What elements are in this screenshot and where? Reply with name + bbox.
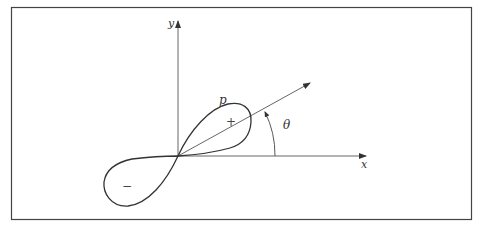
y-axis-label: y: [167, 17, 175, 30]
negative-sign: −: [122, 179, 132, 193]
diagram-canvas: y x p θ + −: [0, 0, 478, 230]
angle-arc: [265, 112, 275, 156]
figure-frame: [12, 8, 472, 220]
x-axis-label: x: [361, 158, 368, 171]
positive-lobe: [178, 103, 251, 156]
positive-sign: +: [226, 115, 236, 129]
curve-label: p: [219, 93, 227, 107]
negative-lobe: [104, 156, 178, 206]
angle-label: θ: [283, 118, 291, 132]
